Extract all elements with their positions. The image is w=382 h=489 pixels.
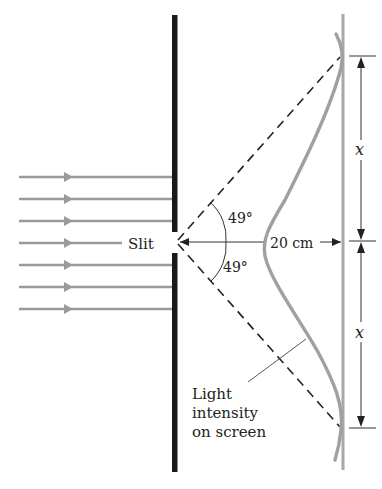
x-label-top: x [355,140,364,159]
diffraction-diagram: Slit 20 cm 49° 49° x x Light intensity o… [0,0,382,489]
angle-arc-top [211,203,226,242]
x-label-bottom: x [355,323,364,342]
intensity-caption-line2: intensity [192,404,259,422]
intensity-caption-line1: Light [192,385,232,403]
dimension-markers [349,56,376,428]
ray-arrowheads [64,172,73,314]
intensity-leader-line [248,339,306,382]
slit-label: Slit [128,235,154,253]
angle-label-bottom: 49° [223,259,248,275]
angle-label-top: 49° [228,210,253,226]
slit-barrier [172,15,178,472]
intensity-caption-line3: on screen [192,423,266,441]
distance-label: 20 cm [270,235,313,251]
